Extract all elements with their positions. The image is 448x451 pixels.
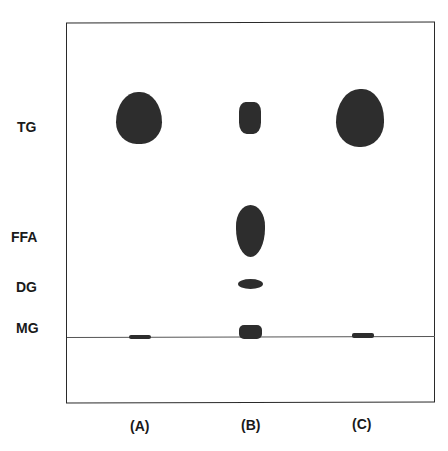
spot-b-mg [239,325,262,339]
spot-b-tg [239,102,261,134]
band-label-tg: TG [17,119,36,135]
band-label-dg: DG [16,279,37,295]
band-label-mg: MG [16,320,39,336]
lane-label-c: (C) [352,416,371,432]
lane-label-b: (B) [241,417,260,433]
spot-a-origin [129,335,151,339]
spot-c-origin [352,333,374,338]
spot-c-tg [336,89,384,147]
spot-a-tg [116,92,162,144]
spot-b-dg [238,279,263,289]
band-label-ffa: FFA [11,229,37,245]
lane-label-a: (A) [130,418,149,434]
